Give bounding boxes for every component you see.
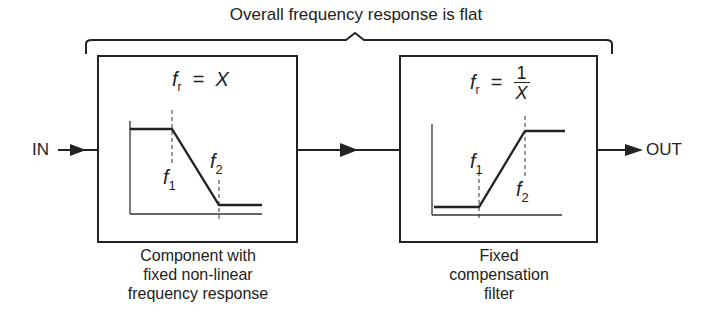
- caption-line: Component with: [98, 246, 298, 265]
- compensation-response-chart: [432, 116, 565, 221]
- output-arrow: [597, 144, 643, 156]
- marker-var: f: [163, 166, 169, 188]
- marker-var: f: [516, 178, 522, 200]
- marker-var: f: [470, 150, 476, 172]
- caption-line: frequency response: [98, 284, 298, 303]
- input-label: IN: [32, 140, 49, 160]
- overall-brace: [86, 33, 612, 54]
- component-f1-label: f1: [163, 166, 176, 189]
- caption-line: filter: [400, 284, 598, 303]
- marker-sub: 1: [169, 178, 176, 193]
- response-curve: [130, 129, 262, 205]
- formula-fraction: 1 X: [514, 64, 530, 103]
- middle-arrow: [297, 143, 400, 157]
- output-label: OUT: [646, 140, 682, 160]
- component-caption: Component with fixed non-linear frequenc…: [98, 246, 298, 303]
- diagram-title: Overall frequency response is flat: [0, 5, 712, 25]
- formula-var: f: [172, 68, 178, 90]
- formula-var: f: [470, 71, 476, 93]
- component-formula: fr = X: [172, 68, 229, 91]
- marker-sub: 2: [522, 190, 529, 205]
- marker-sub: 1: [476, 162, 483, 177]
- formula-value: X: [216, 68, 229, 90]
- caption-line: Fixed: [400, 246, 598, 265]
- formula-eq: =: [193, 68, 205, 90]
- compensation-caption: Fixed compensation filter: [400, 246, 598, 303]
- response-curve: [434, 131, 565, 207]
- caption-line: fixed non-linear: [98, 265, 298, 284]
- compensation-f2-label: f2: [516, 178, 529, 201]
- caption-line: compensation: [400, 265, 598, 284]
- component-f2-label: f2: [210, 150, 223, 173]
- fraction-numerator: 1: [514, 64, 530, 83]
- component-response-chart: [130, 110, 262, 220]
- input-arrow: [58, 144, 98, 156]
- compensation-f1-label: f1: [470, 150, 483, 173]
- formula-sub: r: [476, 83, 480, 97]
- fraction-denominator: X: [514, 83, 530, 103]
- formula-eq: =: [491, 71, 503, 93]
- marker-sub: 2: [216, 162, 223, 177]
- marker-var: f: [210, 150, 216, 172]
- formula-sub: r: [178, 80, 182, 94]
- compensation-formula: fr = 1 X: [470, 64, 530, 103]
